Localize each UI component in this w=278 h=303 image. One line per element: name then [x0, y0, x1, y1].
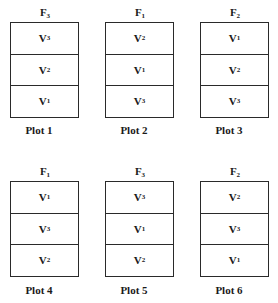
plot-label: Plot 5 — [99, 284, 169, 296]
variety-cell: V3 — [106, 86, 173, 117]
variety-cell: V3 — [106, 182, 173, 214]
plot-label: Plot 1 — [4, 124, 74, 136]
plot-label: Plot 4 — [4, 284, 74, 296]
factor-subscript: 2 — [237, 12, 241, 20]
variety-cell: V2 — [106, 245, 173, 276]
variety-cell: V2 — [11, 55, 78, 87]
factor-base: F — [135, 6, 142, 18]
plot-label: Plot 2 — [99, 124, 169, 136]
variety-cell: V2 — [11, 245, 78, 276]
plot-box: V2 V1 V3 — [105, 22, 174, 118]
plot-box: V1 V2 V3 — [200, 22, 269, 118]
plot-box: V1 V3 V2 — [10, 181, 79, 277]
factor-base: F — [135, 165, 142, 177]
plot-box: V2 V3 V1 — [200, 181, 269, 277]
variety-cell: V2 — [201, 55, 268, 87]
variety-cell: V1 — [11, 182, 78, 214]
plot-label: Plot 6 — [194, 284, 264, 296]
plot-box: V3 V2 V1 — [10, 22, 79, 118]
factor-subscript: 1 — [47, 171, 51, 179]
plot-box: V3 V1 V2 — [105, 181, 174, 277]
variety-cell: V1 — [201, 23, 268, 55]
factor-label: F1 — [10, 165, 80, 177]
factor-subscript: 3 — [47, 12, 51, 20]
factor-subscript: 2 — [237, 171, 241, 179]
factor-base: F — [40, 165, 47, 177]
factor-base: F — [230, 165, 237, 177]
variety-cell: V3 — [201, 86, 268, 117]
variety-cell: V1 — [106, 214, 173, 246]
plot-label: Plot 3 — [194, 124, 264, 136]
variety-cell: V1 — [106, 55, 173, 87]
factor-subscript: 3 — [142, 171, 146, 179]
factor-label: F3 — [10, 6, 80, 18]
factor-base: F — [40, 6, 47, 18]
variety-cell: V3 — [201, 214, 268, 246]
variety-cell: V2 — [201, 182, 268, 214]
variety-cell: V3 — [11, 214, 78, 246]
factor-label: F2 — [200, 6, 270, 18]
variety-cell: V3 — [11, 23, 78, 55]
factor-label: F2 — [200, 165, 270, 177]
factor-subscript: 1 — [142, 12, 146, 20]
factor-label: F3 — [105, 165, 175, 177]
variety-cell: V1 — [11, 86, 78, 117]
variety-cell: V1 — [201, 245, 268, 276]
variety-cell: V2 — [106, 23, 173, 55]
factor-base: F — [230, 6, 237, 18]
factor-label: F1 — [105, 6, 175, 18]
